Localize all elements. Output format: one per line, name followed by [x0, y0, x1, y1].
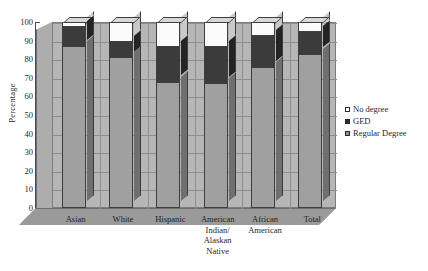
y-tick-label-30: 30: [11, 148, 33, 157]
bar-segment[interactable]: [204, 22, 228, 46]
bar-segment[interactable]: [251, 67, 275, 208]
bar-column[interactable]: [109, 22, 133, 208]
bar-segment-side-face: [87, 35, 94, 201]
y-tick-label-60: 60: [11, 92, 33, 101]
bar-segment-side-face: [276, 24, 283, 60]
bar-segment-side-face: [229, 35, 236, 77]
legend-item-regular-degree: Regular Degree: [345, 127, 407, 139]
legend-label-no-degree: No degree: [353, 103, 388, 115]
legend-swatch-regular-degree-icon: [345, 131, 350, 136]
y-tick-label-80: 80: [11, 55, 33, 64]
bar-segment[interactable]: [109, 22, 133, 41]
legend-swatch-ged-icon: [345, 119, 350, 124]
y-tick-label-70: 70: [11, 74, 33, 83]
y-tick-label-40: 40: [11, 130, 33, 139]
bar-segment-side-face: [181, 71, 188, 201]
legend-swatch-no-degree-icon: [345, 107, 350, 112]
y-tick-label-100: 100: [11, 18, 33, 27]
bar-segment[interactable]: [62, 26, 86, 46]
chart-legend: No degree GED Regular Degree: [345, 103, 407, 139]
y-tick-mark-100: [35, 22, 40, 23]
y-tick-label-20: 20: [11, 167, 33, 176]
bar-segment[interactable]: [156, 22, 180, 46]
gridline-vertical-1: [100, 23, 101, 209]
bar-segment-side-face: [323, 43, 330, 201]
bar-segment-side-face: [181, 35, 188, 75]
legend-item-ged: GED: [345, 115, 407, 127]
bar-segment[interactable]: [298, 22, 322, 31]
bar-segment[interactable]: [251, 22, 275, 35]
plot-side-wall: [36, 22, 52, 216]
y-tick-label-90: 90: [11, 37, 33, 46]
legend-label-regular-degree: Regular Degree: [353, 127, 407, 139]
bar-segment-side-face: [229, 73, 236, 201]
gridline-vertical-2: [148, 23, 149, 209]
bar-column[interactable]: [204, 22, 228, 208]
legend-label-ged: GED: [353, 115, 370, 127]
bar-segment-side-face: [134, 46, 141, 201]
y-tick-label-10: 10: [11, 185, 33, 194]
y-tick-label-0: 0: [11, 204, 33, 213]
gridline-vertical-5: [290, 23, 291, 209]
x-axis-label: Total: [282, 214, 342, 225]
plot-back-wall: [52, 22, 336, 208]
bar-segment[interactable]: [298, 31, 322, 53]
bar-segment[interactable]: [156, 46, 180, 81]
gridline-vertical-3: [195, 23, 196, 209]
plot-area: [52, 14, 336, 214]
bar-segment[interactable]: [156, 82, 180, 208]
bar-segment[interactable]: [62, 46, 86, 208]
bar-column[interactable]: [62, 22, 86, 208]
legend-item-no-degree: No degree: [345, 103, 407, 115]
x-axis-label-line: Alaskan: [188, 235, 248, 246]
x-axis-label-line: Native: [188, 246, 248, 257]
bar-column[interactable]: [156, 22, 180, 208]
bar-segment[interactable]: [298, 54, 322, 208]
bar-segment-side-face: [276, 56, 283, 201]
bar-segment[interactable]: [204, 83, 228, 208]
x-axis-label-line: Total: [282, 214, 342, 225]
bar-segment[interactable]: [109, 57, 133, 208]
bar-segment[interactable]: [251, 35, 275, 67]
chart-container: Percentage 0102030405060708090100 AsianW…: [0, 0, 428, 271]
x-axis-label-line: American: [235, 225, 295, 236]
gridline-vertical-4: [242, 23, 243, 209]
bar-column[interactable]: [298, 22, 322, 208]
bar-column[interactable]: [251, 22, 275, 208]
y-tick-label-50: 50: [11, 111, 33, 120]
bar-segment[interactable]: [109, 41, 133, 58]
bar-segment[interactable]: [204, 46, 228, 83]
